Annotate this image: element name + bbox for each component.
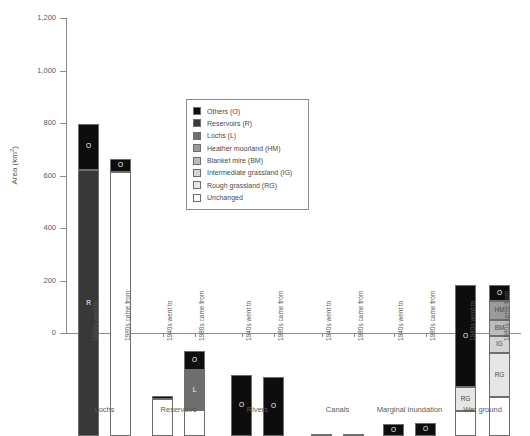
bar-segment-label: O	[497, 290, 502, 297]
legend-label: Lochs (L)	[207, 132, 236, 139]
x-tick	[426, 333, 427, 337]
bar-segment[interactable]: O	[78, 124, 99, 170]
x-tick	[354, 333, 355, 337]
y-axis-title: Area (km2)	[9, 130, 20, 200]
bar-segment-label: RG	[495, 372, 505, 379]
y-tick	[60, 333, 66, 334]
legend-label: Heather moorland (HM)	[207, 145, 281, 152]
legend-label: Others (O)	[207, 108, 240, 115]
y-tick	[60, 18, 66, 19]
x-category-label: 1980s came from	[503, 291, 510, 341]
legend-swatch	[193, 119, 201, 127]
x-category-label: 1940s went to	[469, 301, 476, 341]
y-tick	[60, 228, 66, 229]
x-category-label: 1940s went to	[92, 301, 99, 341]
legend-item[interactable]: Reservoirs (R)	[193, 119, 302, 127]
x-tick	[274, 333, 275, 337]
legend-item[interactable]: Lochs (L)	[193, 132, 302, 140]
x-tick	[322, 333, 323, 337]
bar[interactable]	[152, 396, 173, 436]
y-axis-title-sup: 2	[9, 149, 15, 152]
x-category-label: 1940s went to	[245, 301, 252, 341]
legend-label: Unchanged	[207, 194, 243, 201]
x-category-label: 1980s came from	[124, 291, 131, 341]
x-tick	[163, 333, 164, 337]
stacked-bar-chart: Area (km2) 02004006008001,0001,200 ROOLO…	[0, 0, 530, 436]
legend-label: Rough grassland (RG)	[207, 182, 277, 189]
group-label: Rivers	[213, 405, 303, 414]
bar-segment-label: R	[86, 300, 91, 307]
bar-segment[interactable]: O	[184, 351, 205, 370]
y-tick	[60, 71, 66, 72]
bar[interactable]: LO	[184, 351, 205, 436]
bar-segment-label: O	[391, 427, 396, 434]
legend-item[interactable]: Unchanged	[193, 194, 302, 202]
y-axis-title-text: Area (km	[10, 152, 19, 184]
legend-label: Reservoirs (R)	[207, 120, 252, 127]
bar-segment-label: O	[192, 357, 197, 364]
x-tick	[242, 333, 243, 337]
y-axis-line	[66, 18, 67, 333]
legend-swatch	[193, 169, 201, 177]
bar-segment[interactable]: O	[110, 159, 131, 172]
legend-item[interactable]: Intermediate grassland (IG)	[193, 169, 302, 177]
y-tick-label: 600	[18, 172, 56, 180]
x-axis-line	[66, 333, 521, 334]
legend-swatch	[193, 107, 201, 115]
bar-segment[interactable]: O	[383, 424, 404, 436]
legend-swatch	[193, 157, 201, 165]
bar-segment-label: IG	[496, 341, 503, 348]
legend-item[interactable]: Blanket mire (BM)	[193, 157, 302, 165]
x-category-label: 1940s went to	[397, 301, 404, 341]
x-tick	[394, 333, 395, 337]
bar[interactable]: RO	[78, 124, 99, 436]
legend-label: Intermediate grassland (IG)	[207, 169, 292, 176]
legend-item[interactable]: Heather moorland (HM)	[193, 144, 302, 152]
x-category-label: 1940s went to	[166, 301, 173, 341]
bar[interactable]: O	[415, 423, 436, 436]
chart-legend: Others (O)Reservoirs (R)Lochs (L)Heather…	[186, 99, 309, 210]
x-category-label: 1980s came from	[277, 291, 284, 341]
y-tick-label: 400	[18, 224, 56, 232]
x-category-label: 1980s came from	[198, 291, 205, 341]
bar-segment[interactable]	[152, 396, 173, 399]
group-label: Reservoirs	[134, 405, 224, 414]
bar-segment-label: O	[86, 143, 91, 150]
bar-segment[interactable]: RG	[489, 353, 510, 398]
legend-swatch	[193, 144, 201, 152]
bar-segment[interactable]	[184, 410, 205, 436]
x-category-label: 1980s came from	[357, 291, 364, 341]
bar[interactable]: O	[383, 424, 404, 436]
group-label: Wet ground	[438, 405, 528, 414]
y-axis-title-tail: )	[10, 146, 19, 149]
y-tick-label: 1,000	[18, 67, 56, 75]
legend-item[interactable]: Rough grassland (RG)	[193, 181, 302, 189]
y-tick	[60, 281, 66, 282]
legend-label: Blanket mire (BM)	[207, 157, 263, 164]
x-tick	[195, 333, 196, 337]
bar-segment[interactable]	[489, 397, 510, 436]
y-tick-label: 0	[18, 329, 56, 337]
x-category-label: 1980s came from	[429, 291, 436, 341]
y-tick	[60, 176, 66, 177]
legend-swatch	[193, 132, 201, 140]
bar-segment[interactable]	[455, 411, 476, 436]
bar-segment-label: O	[118, 162, 123, 169]
bar-segment-label: O	[423, 426, 428, 433]
y-tick-label: 800	[18, 119, 56, 127]
legend-swatch	[193, 181, 201, 189]
legend-swatch	[193, 194, 201, 202]
bar-segment-label: L	[193, 387, 197, 394]
bar-segment-label: O	[463, 333, 468, 340]
legend-item[interactable]: Others (O)	[193, 107, 302, 115]
y-tick-label: 1,200	[18, 14, 56, 22]
y-tick-label: 200	[18, 277, 56, 285]
x-category-label: 1940s went to	[325, 301, 332, 341]
bar-segment-label: RG	[461, 396, 471, 403]
y-tick	[60, 123, 66, 124]
bar-segment[interactable]: O	[415, 423, 436, 436]
